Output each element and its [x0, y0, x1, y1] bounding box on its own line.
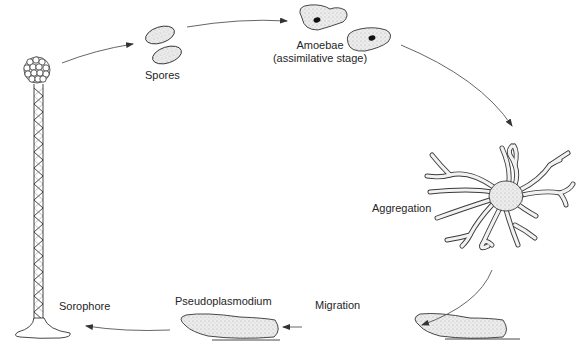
- sorus-head-icon: [24, 57, 50, 83]
- arrow-sorophore-to-spores: [62, 44, 133, 63]
- label-pseudoplasmodium: Pseudoplasmodium: [175, 295, 272, 308]
- spores-illustration: [143, 23, 183, 67]
- label-spores: Spores: [145, 69, 180, 82]
- aggregation-center-icon: [489, 181, 523, 211]
- stalk-icon: [34, 84, 43, 320]
- amoeba-icon: [300, 5, 347, 30]
- sorophore-illustration: [15, 57, 70, 339]
- migration-illustration: [415, 314, 520, 340]
- label-amoebae: Amoebae (assimilative stage): [260, 39, 380, 65]
- spore-icon: [143, 23, 176, 47]
- slime-mold-life-cycle-diagram: Spores Amoebae (assimilative stage) Aggr…: [0, 0, 587, 355]
- label-migration: Migration: [315, 299, 360, 312]
- arrow-spores-to-amoebae: [187, 20, 287, 27]
- label-sorophore: Sorophore: [59, 300, 110, 313]
- arrow-pseudoplasmodium-to-sorophore: [86, 326, 170, 331]
- label-aggregation: Aggregation: [372, 202, 431, 215]
- aggregation-illustration: [427, 146, 573, 248]
- spore-icon: [150, 43, 183, 67]
- basal-disc-icon: [15, 318, 70, 338]
- label-amoebae-title: Amoebae: [260, 39, 380, 52]
- pseudoplasmodium-illustration: [181, 314, 280, 340]
- arrow-amoebae-to-aggregation: [401, 45, 512, 126]
- slug-icon: [415, 314, 507, 339]
- slug-icon: [181, 314, 278, 338]
- label-amoebae-subtitle: (assimilative stage): [260, 52, 380, 65]
